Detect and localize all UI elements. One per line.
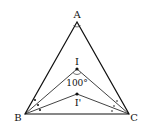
angle-mark-c-1 — [116, 100, 117, 101]
angle-mark-b-1 — [34, 99, 36, 101]
label-i: I — [75, 56, 79, 67]
angle-mark-b-3 — [39, 109, 41, 111]
segment-bi — [25, 69, 77, 114]
angle-mark-c-3 — [111, 110, 112, 111]
angle-mark-b-2 — [37, 104, 39, 106]
triangle-diagram: A B C I 100° I' — [0, 0, 144, 128]
angle-mark-c-2 — [113, 105, 114, 106]
segment-ci — [77, 69, 129, 114]
angle-i-arc — [73, 73, 81, 75]
label-i-prime: I' — [75, 97, 82, 108]
label-a: A — [72, 9, 81, 20]
segment-bi-prime — [25, 94, 77, 114]
point-i-prime — [75, 92, 78, 95]
segment-ci-prime — [77, 94, 129, 114]
angle-label: 100° — [66, 78, 88, 88]
point-i — [75, 67, 78, 70]
label-c: C — [130, 112, 138, 123]
label-b: B — [14, 112, 21, 123]
